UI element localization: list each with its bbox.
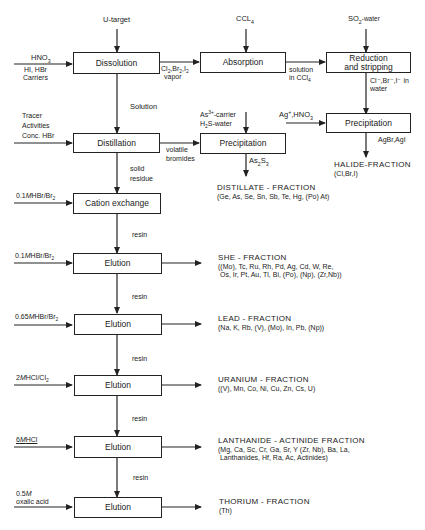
uranium-fraction-body: ((V), Mn, Co, Ni, Cu, Zn, Cs, U) [218,385,315,393]
elution-label-1: Elution [105,259,131,268]
elution-box-3: Elution [74,375,162,396]
carriers-label: HI, HBrCarriers [23,66,48,82]
distillate-fraction-title: DISTILLATE - FRACTION [217,183,316,192]
elution-label-3: Elution [105,381,131,390]
solution-ccl4-label: solutionin CCl4 [289,66,313,82]
lanthanide-fraction-body: (Mg, Ca, Sc, Cr, Ga, Sr, Y (Zr, Nb), Ba,… [218,446,350,462]
volatile-bromides-label: volatilebromides [166,145,195,163]
flow-connectors [0,0,425,530]
uranium-fraction-title: URANIUM - FRACTION [218,375,309,384]
vapor-label: Cl2,Br2,I2vapor [161,65,189,81]
solid-residue-label: solidresidue [130,164,153,184]
dissolution-box: Dissolution [73,52,160,74]
she-fraction-body: ((Mo), Tc, Ru, Rh, Pd, Ag, Cd, W, Re, Os… [218,263,342,279]
solution-label: Solution [130,103,157,111]
cation-eluent-label: 0.1MHBr/Br2 [16,192,55,200]
absorption-label: Absorption [223,58,264,67]
absorption-box: Absorption [200,52,286,73]
reduction-label-2: and stripping [344,63,393,72]
cation-exchange-box: Cation exchange [73,193,161,214]
thorium-fraction-title: THORIUM - FRACTION [219,497,310,506]
h2s-water-label: H2S-water [200,120,232,128]
resin-label-3: resin [132,355,147,363]
reduction-box: Reductionand stripping [326,52,411,73]
elution1-eluent-label: 0.1MHBr/Br2 [15,252,54,260]
she-fraction-title: SHE - FRACTION [218,253,287,262]
elution5-eluent-label: 0.5Moxalic acid [16,490,49,506]
elution-label-4: Elution [105,443,131,452]
cation-exchange-label: Cation exchange [85,199,149,208]
halide-fraction-title: HALIDE-FRACTION [334,160,411,169]
elution-box-4: Elution [74,436,162,458]
agbr-agi-label: AgBr,AgI [378,136,406,144]
elution2-eluent-label: 0.65MHBr/Br2 [15,313,58,321]
precipitation-as-label: Precipitation [220,139,267,148]
thorium-fraction-body: (Th) [219,507,232,515]
halides-water-label: Cl⁻,Br⁻,I⁻ inwater [370,77,409,93]
elution-box-1: Elution [73,253,162,274]
dissolution-label: Dissolution [96,59,138,68]
u-target-label: U-target [103,16,130,24]
tracer-label: TracerActivitiesConc. HBr [22,111,54,141]
lead-fraction-body: (Na, K, Rb, (V), (Mo), In, Pb, (Np)) [218,324,324,332]
resin-label-4: resin [132,415,147,423]
elution-box-5: Elution [74,497,162,518]
elution-label-2: Elution [105,320,131,329]
elution-box-2: Elution [74,314,162,335]
resin-label-1: resin [132,231,147,239]
as2s3-label: As2S3 [249,157,269,165]
lanthanide-fraction-title: LANTHANIDE - ACTINIDE FRACTION [218,436,365,445]
so2-water-label: SO2-water [348,15,380,23]
distillate-fraction-body: (Ge, As, Se, Sn, Sb, Te, Hg, (Po) At) [217,193,329,201]
resin-label-2: resin [132,293,147,301]
precipitation-halide-box: Precipitation [326,113,411,133]
elution4-eluent-label: 6MHCl [16,436,37,444]
halide-fraction-body: (Cl,Br,I) [334,170,358,178]
ccl4-label: CCL4 [236,15,254,23]
as-carrier-label: As3+-carrier [200,111,236,119]
distillation-label: Distillation [97,139,136,148]
elution3-eluent-label: 2MHCl/Cl2 [16,374,49,382]
precipitation-as-box: Precipitation [200,133,286,154]
elution-label-5: Elution [105,503,131,512]
ag-hno3-label: Ag+,HNO3 [279,111,313,119]
hno3-label: HNO3 [31,54,51,62]
distillation-box: Distillation [73,133,160,153]
resin-label-5: resin [133,474,148,482]
lead-fraction-title: LEAD - FRACTION [218,314,291,323]
precipitation-halide-label: Precipitation [345,119,392,128]
